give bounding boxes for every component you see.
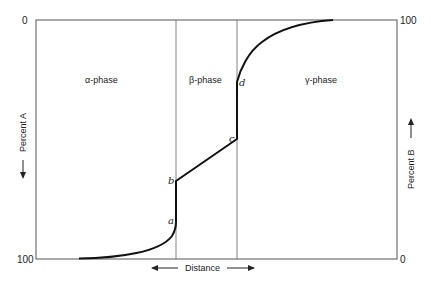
point-d-label: d [239,77,245,88]
distance-label: Distance [185,263,220,273]
beta-phase-label: β-phase [189,75,222,85]
arrow-left-icon [151,265,158,271]
gamma-phase-label: γ-phase [305,75,337,85]
left-axis-label: Percent A [18,113,28,152]
concentration-curve [79,20,333,259]
left-bottom-tick: 100 [17,254,34,265]
arrow-down-icon [20,172,26,179]
point-c-label: c [229,133,235,144]
right-top-tick: 100 [400,15,417,26]
alpha-phase-label: α-phase [85,75,118,85]
point-b-label: b [168,175,174,186]
left-axis-label-group: Percent A [18,113,28,152]
arrow-right-icon [248,265,255,271]
arrow-up-icon [408,118,414,125]
plot-frame [36,20,397,259]
right-bottom-tick: 0 [400,254,406,265]
right-axis-label-group: Percent B [406,149,416,189]
point-a-label: a [168,215,174,226]
phase-diagram: 0 100 100 0 α-phase β-phase γ-phase a b … [0,0,431,284]
left-top-tick: 0 [22,15,28,26]
right-axis-label: Percent B [406,149,416,189]
